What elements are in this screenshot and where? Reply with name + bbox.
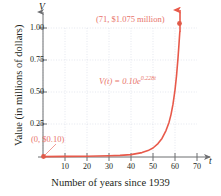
x-tick-label-70: 70 (187, 163, 207, 171)
x-tick-label-60: 60 (165, 163, 185, 171)
x-tick-label-30: 30 (99, 163, 119, 171)
x-tick-label-50: 50 (143, 163, 163, 171)
equation-annotation: V(t) = 0.10e0.228t (99, 77, 156, 86)
x-tick-label-40: 40 (121, 163, 141, 171)
start-point-marker (41, 154, 46, 159)
y-axis-title: Value (in millions of dollars) (14, 10, 25, 160)
grid-lines (43, 28, 197, 155)
equation-exponent: 0.228t (141, 75, 156, 81)
v-axis-symbol: V (39, 3, 45, 13)
equation-base: V(t) = 0.10e (99, 76, 141, 86)
x-tick-label-20: 20 (77, 163, 97, 171)
end-point-marker (177, 21, 182, 26)
exponential-growth-chart: V t 1.00 0.75 0.50 0.25 10 20 30 40 50 6… (0, 0, 221, 196)
start-point-annotation: (0, $0.10) (31, 135, 64, 144)
end-point-annotation: (71, $1.075 million) (96, 15, 164, 24)
origin-leader-line (44, 144, 56, 156)
x-tick-label-10: 10 (55, 163, 75, 171)
t-axis-symbol: t (209, 157, 212, 167)
x-axis-title: Number of years since 1939 (0, 178, 221, 189)
